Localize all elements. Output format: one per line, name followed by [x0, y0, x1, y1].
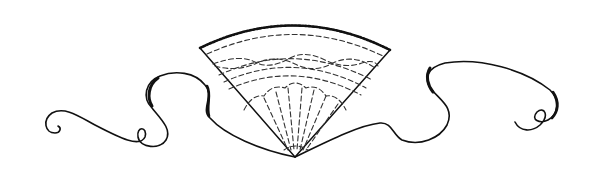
fan [200, 25, 390, 157]
fan-ribbon-illustration [0, 0, 594, 172]
right-ribbon [295, 62, 557, 157]
